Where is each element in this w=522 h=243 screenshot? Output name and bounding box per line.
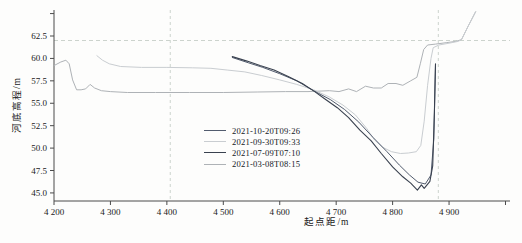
y-tick-label: 62.5 — [31, 31, 47, 41]
legend-item: 2021-09-30T09:33 — [204, 137, 300, 146]
legend: 2021-10-20T09:262021-09-30T09:332021-07-… — [204, 126, 300, 169]
y-tick-label: 47.5 — [31, 166, 47, 176]
x-tick-label: 4 800 — [382, 207, 403, 217]
legend-label: 2021-09-30T09:33 — [232, 137, 300, 147]
x-tick-label: 4 500 — [213, 207, 234, 217]
legend-line-marker — [204, 164, 226, 165]
y-tick-label: 50.0 — [31, 143, 47, 153]
x-tick-label: 4 400 — [157, 207, 178, 217]
y-tick-label: 52.5 — [31, 121, 47, 131]
legend-item: 2021-10-20T09:26 — [204, 126, 300, 135]
series-line — [54, 12, 476, 93]
y-tick-label: 55.0 — [31, 98, 47, 108]
legend-item: 2021-07-09T07:10 — [204, 148, 300, 157]
x-tick-label: 4 900 — [439, 207, 460, 217]
legend-line-marker — [204, 141, 226, 142]
legend-label: 2021-10-20T09:26 — [232, 126, 300, 136]
legend-item: 2021-03-08T08:15 — [204, 160, 300, 169]
legend-label: 2021-07-09T07:10 — [232, 148, 300, 158]
legend-label: 2021-03-08T08:15 — [232, 159, 300, 169]
riverbed-elevation-chart: 4 2004 3004 4004 5004 6004 7004 8004 900… — [0, 0, 522, 243]
y-tick-label: 60.0 — [31, 53, 47, 63]
y-axis-title: 河底高程/m — [9, 65, 23, 145]
x-tick-label: 4 300 — [100, 207, 121, 217]
y-tick-label: 45.0 — [31, 188, 47, 198]
legend-line-marker — [204, 130, 226, 131]
y-tick-label: 57.5 — [31, 76, 47, 86]
chart-canvas: 4 2004 3004 4004 5004 6004 7004 8004 900… — [0, 0, 522, 243]
x-tick-label: 4 200 — [44, 207, 65, 217]
x-axis-title: 起点距/m — [272, 214, 382, 228]
legend-line-marker — [204, 152, 226, 153]
